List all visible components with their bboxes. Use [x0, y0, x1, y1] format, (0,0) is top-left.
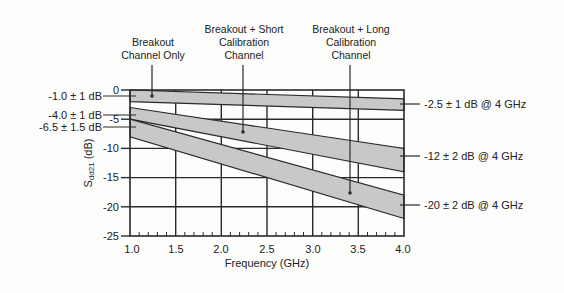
svg-text:1.5: 1.5 [168, 243, 183, 255]
series-labels: Breakout Channel Only Breakout + Short C… [121, 23, 390, 61]
svg-text:0: 0 [113, 84, 119, 96]
svg-text:3.0: 3.0 [305, 243, 320, 255]
x-axis-label: Frequency (GHz) [225, 257, 309, 269]
svg-text:Calibration: Calibration [219, 36, 269, 48]
svg-text:4.0: 4.0 [395, 243, 410, 255]
svg-text:Calibration: Calibration [326, 36, 376, 48]
svg-text:-12 ± 2 dB @ 4 GHz: -12 ± 2 dB @ 4 GHz [424, 150, 523, 162]
svg-text:-10: -10 [103, 142, 119, 154]
svg-text:-2.5 ± 1 dB @ 4 GHz: -2.5 ± 1 dB @ 4 GHz [424, 98, 526, 110]
svg-text:-6.5 ± 1.5 dB: -6.5 ± 1.5 dB [39, 121, 102, 133]
svg-text:2.0: 2.0 [213, 243, 228, 255]
svg-text:Channel Only: Channel Only [121, 49, 185, 61]
svg-text:Breakout: Breakout [132, 36, 174, 48]
svg-text:Breakout + Short: Breakout + Short [204, 23, 283, 35]
svg-text:1.0: 1.0 [124, 243, 139, 255]
svg-text:-1.0 ± 1 dB: -1.0 ± 1 dB [48, 90, 102, 102]
chart: 0 -5 -10 -15 -20 -25 1.0 1.5 2.0 2.5 3.0… [0, 0, 564, 293]
y-ticks [121, 90, 130, 236]
y-axis-label: Sdd21 (dB) [82, 139, 96, 188]
svg-text:-20 ± 2 dB @ 4 GHz: -20 ± 2 dB @ 4 GHz [424, 199, 523, 211]
svg-text:3.5: 3.5 [350, 243, 365, 255]
left-annotations: -1.0 ± 1 dB -4.0 ± 1 dB -6.5 ± 1.5 dB [39, 90, 102, 133]
y-tick-labels: 0 -5 -10 -15 -20 -25 [103, 84, 119, 242]
svg-text:-20: -20 [103, 201, 119, 213]
svg-text:-15: -15 [103, 171, 119, 183]
svg-text:-25: -25 [103, 230, 119, 242]
x-tick-labels: 1.0 1.5 2.0 2.5 3.0 3.5 4.0 [124, 243, 410, 255]
svg-text:-4.0 ± 1 dB: -4.0 ± 1 dB [48, 109, 102, 121]
svg-text:2.5: 2.5 [259, 243, 274, 255]
right-annotations: -2.5 ± 1 dB @ 4 GHz -12 ± 2 dB @ 4 GHz -… [424, 98, 526, 211]
svg-text:Breakout + Long: Breakout + Long [312, 23, 390, 35]
svg-text:Channel: Channel [331, 49, 370, 61]
svg-text:Channel: Channel [224, 49, 263, 61]
